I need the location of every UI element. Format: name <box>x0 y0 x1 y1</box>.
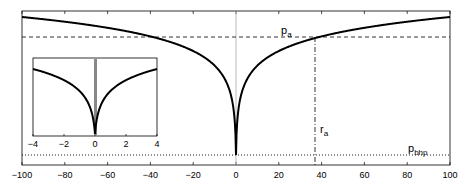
x-tick-label: 40 <box>317 170 327 180</box>
inset-x-tick-label: −2 <box>59 139 69 149</box>
inset-x-tick-labels: −4−2024 <box>28 139 160 149</box>
inset-x-tick-label: −4 <box>28 139 38 149</box>
x-tick-label: −60 <box>100 170 115 180</box>
x-axis-tick-labels: −100−80−60−40−20020406080100 <box>12 170 458 180</box>
x-tick-label: 100 <box>442 170 457 180</box>
x-tick-label: −40 <box>143 170 158 180</box>
inset-x-tick-label: 4 <box>154 139 159 149</box>
ra-label: ra <box>320 123 329 138</box>
pressure-profile-chart: −100−80−60−40−20020406080100 pa ra pbhp … <box>0 0 470 185</box>
inset-x-tick-label: 0 <box>92 139 97 149</box>
x-tick-label: 80 <box>402 170 412 180</box>
x-tick-label: 60 <box>359 170 369 180</box>
x-tick-label: −80 <box>57 170 72 180</box>
x-tick-label: 0 <box>233 170 238 180</box>
x-tick-label: −100 <box>12 170 32 180</box>
x-tick-label: 20 <box>274 170 284 180</box>
inset-x-tick-label: 2 <box>123 139 128 149</box>
x-tick-label: −20 <box>186 170 201 180</box>
inset-chart: −4−2024 <box>28 58 160 149</box>
pbhp-label: pbhp <box>408 142 428 157</box>
